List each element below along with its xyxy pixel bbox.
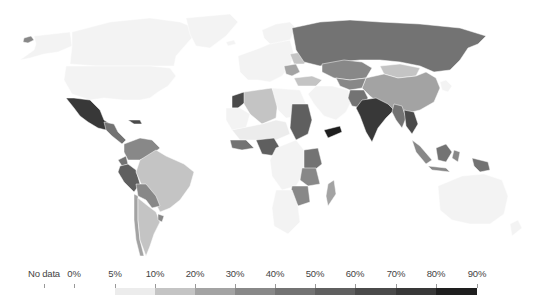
legend-swatch-50-60 [315, 288, 355, 295]
legend-label-70pct: 70% [387, 268, 405, 279]
region-russia [292, 20, 486, 72]
region-tanzania [300, 168, 320, 186]
region-australia [438, 174, 508, 224]
region-europe-west [238, 40, 294, 82]
legend-swatch-10-20 [155, 288, 195, 295]
region-turkey [294, 76, 322, 86]
region-alaska-russia-east-tip [23, 36, 34, 43]
region-malaysia-sumatra [412, 140, 432, 164]
region-iceland [226, 40, 236, 46]
legend-tick [477, 284, 478, 288]
legend-swatch-60-70 [355, 288, 396, 295]
region-sudan-ethiopia [290, 104, 312, 140]
world-choropleth-map [0, 0, 552, 270]
legend-label-5pct: 5% [108, 268, 121, 279]
region-canada [70, 18, 200, 66]
region-madagascar [326, 180, 336, 206]
legend-swatch-80-90 [436, 288, 477, 295]
region-yemen [324, 126, 342, 138]
legend-label-0pct: 0% [67, 268, 80, 279]
region-algeria-north-africa [244, 88, 278, 124]
legend-label-80pct: 80% [427, 268, 445, 279]
region-sulawesi-philippines [452, 150, 460, 162]
region-india [356, 98, 394, 142]
legend-tick [74, 284, 75, 288]
legend-label-30pct: 30% [226, 268, 244, 279]
region-central-america [104, 122, 126, 144]
legend-swatch-no-data [30, 288, 58, 295]
region-western-sahara-mauritania [226, 108, 250, 130]
region-korea-japan [440, 80, 452, 92]
legend-swatch-30-40 [235, 288, 275, 295]
legend-swatch-5-10 [115, 288, 155, 295]
region-balkans-eastern-europe [284, 64, 300, 76]
region-scandinavia [262, 22, 296, 44]
legend-label-20pct: 20% [186, 268, 204, 279]
legend-label-50pct: 50% [306, 268, 324, 279]
region-mexico [66, 98, 110, 130]
region-alaska [20, 32, 72, 60]
legend-swatch-20-30 [195, 288, 235, 295]
region-usa [64, 66, 176, 100]
region-cuba-haiti [128, 120, 142, 124]
legend-swatch-70-80 [396, 288, 436, 295]
region-java [428, 166, 450, 172]
region-new-zealand [510, 220, 522, 236]
legend-label-40pct: 40% [266, 268, 284, 279]
region-kazakhstan [322, 60, 372, 80]
region-brazil [136, 150, 194, 212]
region-papua [472, 158, 490, 172]
region-vietnam-laos-cambodia [404, 110, 418, 134]
region-borneo [436, 144, 452, 162]
legend-label-90pct: 90% [468, 268, 486, 279]
legend-label-60pct: 60% [346, 268, 364, 279]
region-middle-east [308, 86, 352, 120]
legend-label-10pct: 10% [146, 268, 164, 279]
legend-swatch-40-50 [275, 288, 315, 295]
legend-label-no-data: No data [28, 268, 60, 279]
legend: No data 0%5%10%20%30%40%50%60%70%80%90% [0, 262, 552, 305]
region-west-africa-coast [230, 140, 254, 150]
